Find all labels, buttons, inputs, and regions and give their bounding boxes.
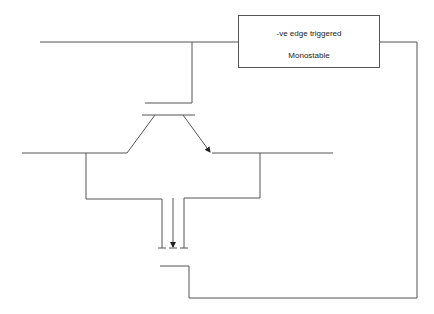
- monostable-label-line1: -ve edge triggered: [239, 29, 379, 38]
- bottom-return-wire: [160, 42, 417, 298]
- transistor-left-leg: [127, 115, 155, 153]
- monostable-box: -ve edge triggered Monostable: [238, 15, 380, 68]
- transistor-right-leg: [183, 115, 210, 152]
- right-drop-wire: [184, 153, 260, 248]
- left-drop-wire: [86, 153, 162, 248]
- monostable-label-line2: Monostable: [239, 51, 379, 60]
